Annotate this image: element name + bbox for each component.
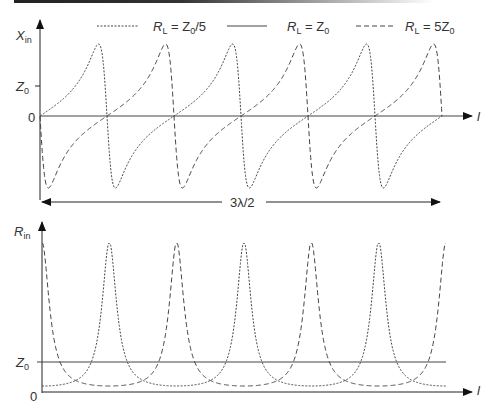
x-in-label: Xin [15, 28, 32, 45]
span-label: 3λ/2 [230, 195, 255, 210]
legend-label-z0: RL = Z0 [287, 19, 329, 36]
legend: RL = Z0/5 RL = Z0 RL = 5Z0 [97, 19, 454, 36]
bottom-l-label: l [477, 383, 481, 398]
top-l-label: l [477, 109, 481, 124]
reactance-plot: Xin Z0 0 l 3λ/2 [15, 20, 481, 210]
bottom-z0-label: Z0 [15, 355, 29, 372]
r-in-label: Rin [14, 224, 30, 241]
resistance-plot: Rin Z0 0 l [14, 222, 481, 404]
legend-label-5z0: RL = 5Z0 [405, 19, 454, 36]
bottom-zero-label: 0 [30, 389, 37, 404]
top-zero-label: 0 [28, 110, 35, 125]
rin-curve-z0-5 [42, 244, 446, 387]
rin-curve-5z0 [42, 244, 446, 387]
legend-label-z0-5: RL = Z0/5 [153, 19, 206, 36]
top-z0-label: Z0 [15, 79, 29, 96]
chart-canvas: RL = Z0/5 RL = Z0 RL = 5Z0 Xin Z0 0 l 3λ… [0, 0, 497, 412]
